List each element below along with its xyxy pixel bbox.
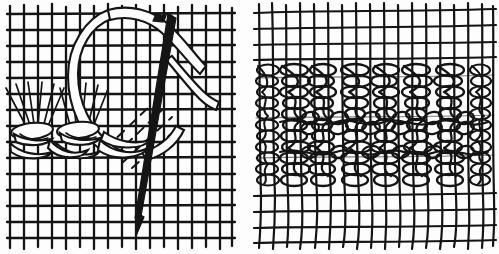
stitch-column: [280, 64, 310, 186]
panel-left-artwork: [0, 0, 248, 254]
radiating-canvas-threads: [6, 82, 108, 127]
panel-left-working-stitch: [0, 0, 248, 254]
panel-right-finished-band: [250, 0, 499, 254]
panel-right-artwork: [250, 0, 499, 254]
figure-root: Knotted stitch worked on even-weave mesh…: [0, 0, 499, 254]
